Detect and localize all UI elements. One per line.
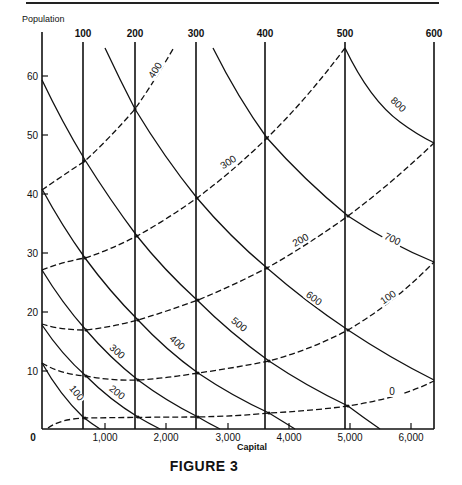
x-tick-label: 4,000 xyxy=(276,432,301,443)
top-labels: 100200300400500600 xyxy=(75,28,443,39)
y-axis-title: Population xyxy=(22,14,65,24)
solid-curve-700 xyxy=(213,48,434,262)
x-tick-label: 2,000 xyxy=(153,432,178,443)
y-tick-label: 20 xyxy=(27,307,39,318)
top-label-300: 300 xyxy=(188,28,205,39)
y-tick-label: 10 xyxy=(27,366,39,377)
x-ticks: 1,0002,0003,0004,0005,0006,000 xyxy=(92,423,423,443)
top-label-100: 100 xyxy=(75,28,92,39)
solid-curve-label-200: 200 xyxy=(106,382,129,403)
y-tick-label: 30 xyxy=(27,248,39,259)
figure-chart: 605040302010 1,0002,0003,0004,0005,0006,… xyxy=(0,0,462,485)
top-label-500: 500 xyxy=(337,28,354,39)
solid-curve-label-800: 800 xyxy=(387,94,409,116)
x-axis-title: Capital xyxy=(237,442,267,452)
figure-caption: FIGURE 3 xyxy=(170,458,239,474)
solid-curve-label-100: 100 xyxy=(66,382,87,405)
solid-curve-500 xyxy=(42,80,380,429)
top-label-600: 600 xyxy=(426,28,443,39)
y-ticks: 605040302010 xyxy=(27,71,48,377)
y-tick-label: 40 xyxy=(27,189,39,200)
solid-curve-100 xyxy=(42,363,100,429)
solid-curves xyxy=(42,48,434,429)
solid-curve-800 xyxy=(345,48,434,143)
solid-curve-600 xyxy=(105,48,434,380)
svg-text:0: 0 xyxy=(389,386,395,397)
solid-curve-300 xyxy=(42,270,220,429)
dashed-curves xyxy=(42,48,434,428)
origin-label: 0 xyxy=(30,432,36,443)
curve-labels: 1002003004005006007008000100200300400 xyxy=(66,59,409,404)
dashed-curve-label-400: 400 xyxy=(145,59,165,82)
y-tick-label: 50 xyxy=(27,130,39,141)
dashed-curve-200 xyxy=(42,143,434,330)
solid-curve-label-700: 700 xyxy=(381,230,404,248)
dashed-curve-label-100: 100 xyxy=(377,287,400,307)
x-tick-label: 5,000 xyxy=(337,432,362,443)
x-tick-label: 1,000 xyxy=(92,432,117,443)
dashed-curve-label-300: 300 xyxy=(217,152,240,172)
solid-curve-label-300: 300 xyxy=(106,341,128,363)
dashed-curve-label-200: 200 xyxy=(289,230,312,249)
top-label-200: 200 xyxy=(127,28,144,39)
dashed-curve-0 xyxy=(48,381,434,428)
y-tick-label: 60 xyxy=(27,71,39,82)
x-tick-label: 6,000 xyxy=(398,432,423,443)
top-label-400: 400 xyxy=(257,28,274,39)
dashed-curve-label-0: 0 xyxy=(382,386,402,397)
solid-curve-200 xyxy=(42,325,160,429)
intersection-dots xyxy=(82,107,349,419)
axes xyxy=(42,32,434,429)
